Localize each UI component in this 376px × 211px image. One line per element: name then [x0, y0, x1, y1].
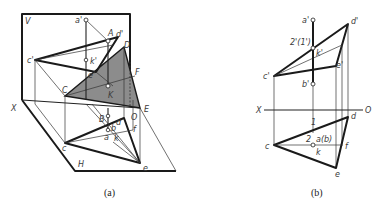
label-e-b: e: [335, 170, 340, 179]
label-e: e: [143, 164, 148, 173]
label-e-prime: e': [88, 71, 95, 80]
label-a-prime-b: a': [302, 16, 309, 25]
label-k: k: [114, 134, 119, 143]
point-A: [106, 39, 110, 43]
label-c-prime-b: c': [263, 72, 270, 81]
point-K: [106, 84, 110, 88]
label-O-b: O: [365, 106, 371, 115]
label-X: X: [10, 104, 17, 113]
label-f-b: f: [345, 142, 349, 151]
caption-a: (a): [104, 187, 115, 199]
label-e-prime-b: e': [336, 61, 343, 70]
label-c: c: [62, 144, 67, 153]
label-d-b: d: [351, 112, 357, 121]
label-d-prime-b: d': [351, 17, 358, 26]
label-V: V: [25, 17, 31, 26]
label-a: a: [104, 133, 109, 142]
label-A: A: [107, 29, 113, 38]
point-a-prime: [84, 18, 88, 22]
label-H: H: [78, 160, 84, 169]
label-2-b: 2: [306, 135, 311, 144]
label-F: F: [135, 68, 140, 77]
line-ck-prime: [35, 45, 113, 60]
label-D: D: [124, 41, 130, 50]
panel-a: V X H a' A d' D c' k' e' F C K E B O d b…: [10, 14, 176, 199]
label-c-b: c: [265, 142, 270, 151]
label-K: K: [108, 91, 114, 100]
h-plane-border: [22, 100, 176, 171]
label-B: B: [99, 115, 105, 124]
label-f: f: [133, 125, 137, 134]
point-a: [106, 128, 110, 132]
label-O: O: [131, 113, 137, 122]
label-2-1-prime: 2'(1'): [290, 38, 311, 47]
label-k-prime-b: k': [316, 49, 323, 58]
label-b-prime-b: b': [302, 80, 309, 89]
point-k-prime: [84, 58, 88, 62]
point-b-prime-b: [311, 82, 315, 86]
label-c-prime: c': [27, 56, 34, 65]
projector-a: [86, 20, 108, 41]
label-X-b: X: [255, 106, 262, 115]
label-k-prime: k': [90, 57, 97, 66]
h-plane-right-edge: [140, 108, 176, 171]
label-C: C: [62, 86, 68, 95]
label-b: b: [111, 124, 116, 133]
label-a-prime: a': [75, 16, 82, 25]
point-B: [106, 114, 110, 118]
label-k-b: k: [316, 148, 321, 157]
label-E: E: [144, 105, 150, 114]
point-a-prime-b: [311, 18, 315, 22]
projection-diagram: V X H a' A d' D c' k' e' F C K E B O d b…: [0, 0, 376, 211]
line-cf-h: [65, 130, 133, 143]
label-a-b-b: a(b): [316, 135, 332, 144]
panel-b: X O a' d' 2'(1') k' e' c' b' d 1 2 a(b) …: [255, 16, 371, 199]
label-d-prime: d': [116, 30, 123, 39]
label-1-b: 1: [311, 118, 316, 127]
point-k-prime-b: [311, 46, 315, 50]
caption-b: (b): [311, 187, 323, 199]
point-ab-b: [311, 143, 315, 147]
